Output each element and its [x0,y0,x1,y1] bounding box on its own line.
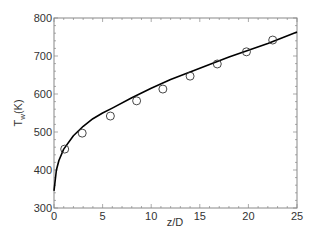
x-tick-label: 25 [291,210,303,222]
measurement-marker [186,72,194,80]
measurement-marker [133,97,141,105]
measurement-marker [106,112,114,120]
y-axis-label: Tw(K) [12,99,27,126]
svg-text:Tw(K): Tw(K) [12,99,27,126]
plot-series [54,32,297,191]
measurement-marker [61,145,69,153]
y-tick-label: 300 [34,202,52,214]
prediction-line [54,32,297,191]
y-tick-label: 600 [34,88,52,100]
x-tick-label: 5 [100,210,106,222]
y-tick-label: 700 [34,50,52,62]
y-tick-label: 800 [34,12,52,24]
tick-labels: 0510152025300400500600700800 [34,12,303,222]
y-tick-label: 400 [34,164,52,176]
x-tick-label: 10 [145,210,157,222]
chart: 0510152025300400500600700800 z/D Tw(K) [0,0,318,243]
x-tick-label: 20 [242,210,254,222]
measurement-marker [78,129,86,137]
measurement-marker [159,85,167,93]
x-tick-label: 15 [194,210,206,222]
x-axis-label: z/D [167,216,184,228]
y-tick-label: 500 [34,126,52,138]
